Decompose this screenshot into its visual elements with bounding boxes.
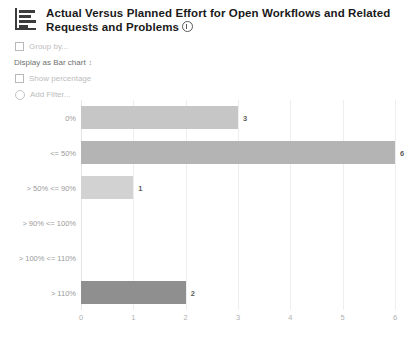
- value-tick-label: 3: [236, 313, 240, 322]
- category-label: 0%: [65, 114, 76, 123]
- bar-chart-icon: [12, 6, 38, 32]
- group-by-control[interactable]: Group by...: [15, 40, 419, 53]
- value-tick-label: 6: [393, 313, 397, 322]
- show-percentage-checkbox[interactable]: [15, 74, 24, 83]
- bar-value-label: 2: [191, 289, 195, 298]
- page-title-text: Actual Versus Planned Effort for Open Wo…: [46, 7, 390, 33]
- display-as-value[interactable]: Bar chart: [53, 58, 85, 67]
- bar-value-label: 6: [400, 149, 404, 158]
- chart-controls: Group by... Display as Bar chart ↕ Show …: [0, 34, 419, 101]
- report-header: Actual Versus Planned Effort for Open Wo…: [0, 0, 419, 34]
- value-tick-label: 0: [79, 313, 83, 322]
- value-tick-label: 2: [184, 313, 188, 322]
- up-down-arrows-icon[interactable]: ↕: [89, 59, 93, 67]
- bar[interactable]: [81, 281, 186, 304]
- category-label: > 100% <= 110%: [19, 254, 76, 263]
- value-tick-label: 1: [131, 313, 135, 322]
- show-percentage-control[interactable]: Show percentage: [15, 72, 419, 85]
- bar-value-label: 3: [243, 114, 247, 123]
- gridline: [81, 100, 82, 310]
- bar-value-label: 1: [138, 184, 142, 193]
- gridline: [133, 100, 134, 310]
- chart-value-axis: 0123456: [81, 313, 395, 325]
- value-tick-label: 5: [341, 313, 345, 322]
- gridline: [186, 100, 187, 310]
- value-tick-label: 4: [288, 313, 292, 322]
- bar[interactable]: [81, 176, 133, 199]
- display-as-prefix: Display as: [14, 58, 51, 67]
- chart-category-axis: 0%<= 50%> 50% <= 90%> 90% <= 100%> 100% …: [0, 100, 76, 310]
- group-by-label: Group by...: [29, 42, 68, 52]
- bar[interactable]: [81, 106, 238, 129]
- page-title: Actual Versus Planned Effort for Open Wo…: [46, 5, 398, 34]
- group-by-checkbox[interactable]: [15, 42, 24, 51]
- show-percentage-label: Show percentage: [29, 74, 91, 84]
- category-label: <= 50%: [50, 149, 76, 158]
- gridline: [238, 100, 239, 310]
- gridline: [290, 100, 291, 310]
- gridline: [395, 100, 396, 310]
- bar-chart: 0%<= 50%> 50% <= 90%> 90% <= 100%> 100% …: [0, 95, 419, 335]
- category-label: > 110%: [51, 289, 76, 298]
- display-as-control[interactable]: Display as Bar chart ↕: [14, 56, 419, 69]
- bar[interactable]: [81, 141, 395, 164]
- gridline: [343, 100, 344, 310]
- info-icon[interactable]: [182, 21, 193, 32]
- category-label: > 50% <= 90%: [27, 184, 76, 193]
- category-label: > 90% <= 100%: [22, 219, 76, 228]
- chart-plot-area: 3612: [81, 100, 395, 310]
